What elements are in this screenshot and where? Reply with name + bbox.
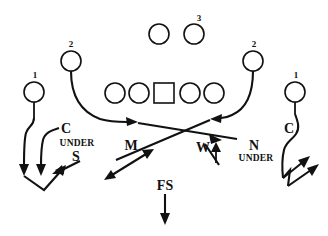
label-free-safety: FS — [157, 178, 174, 193]
receiver-slot-left-two — [61, 51, 81, 71]
lineman-right-tackle — [204, 83, 224, 103]
label-mike-linebacker: M — [124, 138, 137, 153]
receiver-far-left-one — [24, 82, 44, 102]
right-corner-technique: C — [282, 102, 319, 186]
free-safety-arrowhead — [160, 213, 170, 225]
left-corner-v-break — [24, 172, 60, 190]
offense-back-left — [149, 24, 169, 44]
right-corner-arrowhead-inner — [298, 156, 310, 168]
label-receiver-one-left: 1 — [33, 70, 38, 80]
mike-arrow-line — [112, 154, 146, 175]
strong-safety-arrowhead — [52, 165, 64, 174]
label-will-linebacker: W — [196, 140, 210, 155]
will-arrowhead-up — [211, 142, 221, 152]
free-safety-arrow: FS — [157, 178, 174, 225]
label-receiver-two-right: 2 — [252, 39, 257, 49]
defense-label-group: S M W N — [72, 138, 259, 164]
left-corner-inner-drop — [41, 128, 59, 166]
mike-arrowhead-down — [104, 170, 116, 180]
label-receiver-two-left: 2 — [69, 39, 74, 49]
label-receiver-one-right: 1 — [294, 70, 299, 80]
label-corner-left: C — [61, 121, 71, 136]
lineman-left-tackle — [105, 83, 125, 103]
label-back-three: 3 — [197, 13, 202, 23]
lineman-left-guard — [129, 83, 149, 103]
play-diagram-canvas: 3 1 2 2 1 — [0, 0, 328, 236]
left-corner-inner-arrowhead — [36, 164, 46, 176]
receiver-slot-right-two — [243, 51, 263, 71]
right-corner-arrow-line-inner — [283, 162, 303, 178]
right-corner-arrowhead-outer — [307, 164, 319, 176]
offensive-line-group — [105, 83, 224, 103]
offensive-backfield-group: 3 — [149, 13, 204, 44]
lineman-center — [154, 83, 174, 103]
route-slot-left-crosser — [71, 71, 237, 139]
mike-arrowhead-up — [142, 149, 154, 159]
label-corner-right: C — [284, 121, 294, 136]
label-zone-under-left: UNDER — [60, 138, 95, 148]
left-corner-hook-arrowhead — [19, 164, 29, 176]
receiver-far-right-one — [285, 82, 305, 102]
lineman-right-guard — [180, 83, 200, 103]
route-arrowhead-slot-right — [210, 114, 222, 123]
label-zone-under-right: UNDER — [239, 153, 274, 163]
label-nickel: N — [249, 138, 259, 153]
play-diagram-svg: 3 1 2 2 1 — [0, 0, 328, 236]
route-arrowhead-slot-left — [126, 117, 138, 126]
route-path-slot-right — [221, 71, 253, 118]
route-path-slot-left-extension — [138, 123, 237, 139]
zone-label-group: UNDER UNDER — [60, 138, 274, 163]
left-corner-hook — [24, 118, 34, 166]
label-strong-safety: S — [72, 149, 80, 164]
offense-back-right — [184, 24, 204, 44]
